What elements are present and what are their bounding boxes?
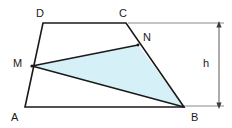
point-marker-m [30, 64, 33, 67]
geometry-figure: D C N M A B h [0, 0, 232, 128]
shaded-triangle-mnb [32, 45, 184, 107]
dimension-arrowhead-top [216, 21, 221, 28]
vertex-label-a: A [11, 112, 18, 123]
vertex-label-b: B [191, 112, 198, 123]
vertex-label-m: M [13, 58, 22, 69]
dimension-label-h: h [203, 58, 209, 69]
vertex-label-n: N [143, 32, 151, 43]
vertex-label-c: C [119, 8, 127, 19]
geometry-canvas [0, 0, 232, 128]
point-marker-n [137, 44, 140, 47]
vertex-label-d: D [36, 8, 44, 19]
